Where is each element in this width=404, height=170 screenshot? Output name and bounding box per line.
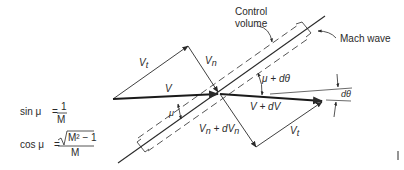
control-volume-label-line1: Control	[235, 6, 267, 17]
svg-text:sin μ: sin μ	[20, 106, 42, 117]
svg-text:Vt: Vt	[290, 125, 300, 138]
svg-text:M: M	[57, 114, 65, 125]
mu-plus-dtheta-label: μ + dθ	[261, 73, 290, 84]
svg-text:Vn: Vn	[205, 55, 217, 68]
svg-text:cos μ: cos μ	[20, 139, 44, 150]
dtheta-ref-line-lower	[326, 100, 351, 101]
mu-label: μ	[168, 108, 174, 118]
v-plus-dv-arrow	[220, 94, 322, 101]
dtheta-arrow-top	[337, 74, 338, 87]
svg-text:Vt: Vt	[139, 57, 149, 70]
mach-wave-line	[118, 16, 325, 163]
mu-angle-arrow	[178, 104, 181, 119]
mach-wave-diagram: Control volume Mach wave Vt Vn V μ V + d…	[0, 0, 404, 170]
v-label: V	[165, 83, 173, 94]
v-arrow	[113, 94, 218, 99]
svg-text:=: =	[54, 139, 60, 150]
vt-upper-arrow	[113, 46, 188, 99]
mach-wave-leader	[318, 31, 336, 38]
svg-text:1: 1	[61, 101, 67, 112]
dtheta-ref-line-upper	[270, 88, 352, 94]
control-volume-label-line2: volume	[235, 18, 268, 29]
vn-arrow	[188, 46, 218, 92]
svg-text:Vn + dVn: Vn + dVn	[199, 123, 239, 136]
dtheta-label: dθ	[341, 89, 351, 99]
dtheta-arrow-bottom	[334, 102, 336, 117]
v-plus-dv-label: V + dV	[250, 101, 282, 112]
sin-equation: sin μ = 1 M	[20, 101, 67, 125]
cos-equation: cos μ = M² − 1 M	[20, 131, 97, 158]
svg-text:M² − 1: M² − 1	[68, 132, 97, 143]
mach-wave-label: Mach wave	[340, 33, 391, 44]
svg-text:M: M	[71, 147, 79, 158]
